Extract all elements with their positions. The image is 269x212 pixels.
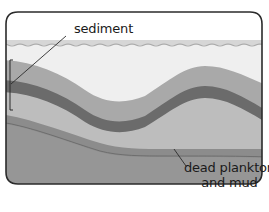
dead-plankton-label-line1: dead plankton — [184, 160, 269, 175]
dead-plankton-label: dead plankton and mud — [184, 160, 269, 190]
sediment-label: sediment — [74, 21, 133, 36]
dead-plankton-label-line2: and mud — [184, 175, 269, 190]
